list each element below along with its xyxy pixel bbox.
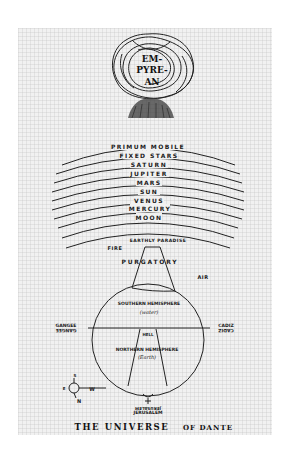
empyrean-label-3: AN — [143, 77, 159, 87]
heaven-label-sun: SUN — [140, 188, 158, 195]
cadiz-label-inverted: CADIZ — [218, 328, 234, 333]
gangee-label: GANGEE — [56, 323, 77, 328]
earthly-paradise-label: EARTHLY PARADISE — [130, 238, 187, 243]
hell-label: HELL — [142, 332, 154, 337]
compass-n: N — [77, 398, 81, 404]
air-label: AIR — [197, 274, 208, 280]
empyrean-label-1: EM- — [142, 54, 163, 64]
compass-w: W — [89, 386, 95, 392]
figure-title-suffix: OF DANTE — [183, 423, 233, 432]
heaven-label-mercury: MERCURY — [129, 205, 171, 212]
jerusalem-label: JERUSALEM — [132, 410, 163, 415]
northern-hemisphere-label: NORTHERN HEMISPHERE — [116, 347, 178, 352]
cadiz-label: CADIZ — [218, 323, 234, 328]
heaven-label-mars: MARS — [137, 179, 161, 186]
empyrean-label-2: PYRE- — [136, 65, 168, 75]
heaven-label-primum-mobile: PRIMUM MOBILE — [111, 143, 185, 150]
compass-e: E — [63, 386, 66, 391]
purgatory-label: PURGATORY — [121, 258, 178, 265]
gangee-label-inverted: GANGEE — [56, 328, 77, 333]
figure-title: THE UNIVERSE — [75, 422, 170, 432]
heaven-label-moon: MOON — [136, 214, 163, 221]
southern-hemisphere-label: SOUTHERN HEMISPHERE — [118, 301, 180, 306]
compass-icon — [69, 378, 106, 398]
southern-hemisphere-sub: (water) — [140, 309, 159, 315]
fire-label: FIRE — [108, 245, 123, 251]
dante-universe-diagram: EM- PYRE- AN PRIMUM MOBILE FIXED STARS S… — [0, 0, 285, 459]
northern-hemisphere-sub: (Earth) — [138, 354, 156, 360]
heaven-label-venus: VENUS — [134, 197, 164, 204]
heaven-label-jupiter: JUPITER — [129, 170, 168, 178]
rose-stem-shading — [128, 98, 174, 118]
heaven-label-fixed-stars: FIXED STARS — [119, 152, 178, 159]
heaven-label-saturn: SATURN — [131, 161, 168, 168]
compass-s: S — [74, 373, 77, 378]
